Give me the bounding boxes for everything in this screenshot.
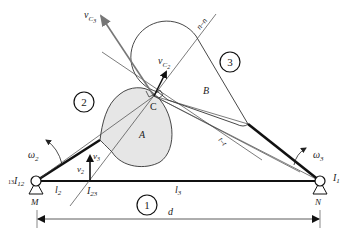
pivot-n: [313, 176, 327, 194]
diagram-canvas: 2 3 1 vC3 vC2 n–n t–t C A B ω2 ω3 v3 v2 …: [0, 0, 349, 238]
label-l2: l2: [55, 184, 62, 197]
pivot-m: [29, 176, 43, 194]
label-cam-a: A: [138, 129, 146, 140]
label-l3: l3: [175, 184, 182, 197]
label-contact-c: C: [150, 101, 157, 112]
link-3-arm: [248, 124, 320, 181]
label-vc3: vC3: [84, 9, 96, 24]
label-v3: v3: [93, 151, 100, 162]
svg-text:2: 2: [81, 96, 87, 108]
link-1-badge: 1: [137, 195, 157, 215]
label-tangent: t–t: [216, 136, 229, 149]
svg-text:1: 1: [144, 199, 150, 211]
label-i12: 13I12: [8, 175, 25, 188]
link-3-badge: 3: [220, 52, 240, 72]
link-2-badge: 2: [74, 92, 94, 112]
label-pivot-m: M: [30, 197, 39, 207]
dimension-d: [37, 210, 320, 228]
label-omega-3: ω3: [313, 149, 324, 163]
label-v2: v2: [77, 164, 84, 175]
label-i23: I23: [86, 185, 98, 198]
label-i13: I1: [332, 172, 340, 185]
omega-2-arc: [46, 140, 62, 164]
label-omega-2: ω2: [28, 149, 39, 163]
label-cam-b: B: [203, 85, 209, 96]
label-distance-d: d: [168, 206, 174, 217]
label-pivot-n: N: [314, 197, 322, 207]
label-normal: n–n: [194, 16, 208, 31]
svg-text:3: 3: [227, 56, 233, 68]
